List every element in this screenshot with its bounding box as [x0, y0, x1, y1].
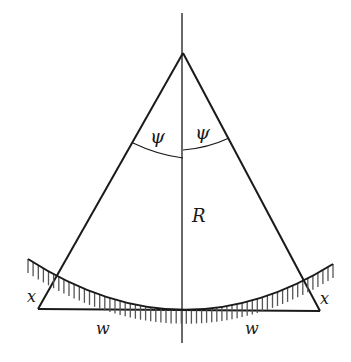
surface-hatching: [28, 259, 333, 324]
sector-left-side: [38, 53, 183, 309]
w-label-right: w: [245, 319, 259, 338]
curved-surface: [28, 259, 333, 310]
sector-right-side: [183, 53, 320, 311]
psi-label-right: ψ: [195, 121, 211, 143]
psi-label-left: ψ: [150, 125, 166, 147]
x-label-right: x: [320, 289, 329, 308]
w-label-left: w: [96, 319, 110, 338]
arc-geometry-diagram: ψ ψ R x x w w: [0, 0, 351, 362]
x-label-left: x: [27, 287, 36, 306]
radius-label: R: [191, 205, 206, 226]
